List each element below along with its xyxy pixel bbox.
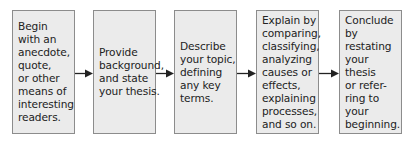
arrow-right-icon bbox=[156, 69, 174, 78]
step-label: Provide background, and state your thesi… bbox=[99, 46, 164, 98]
step-label: Begin with an anecdote, quote, or other … bbox=[18, 20, 74, 124]
step-box-2-background: Provide background, and state your thesi… bbox=[93, 10, 156, 134]
arrow-right-icon bbox=[319, 69, 339, 78]
step-box-3-describe: Describe your topic, defining any key te… bbox=[174, 10, 237, 134]
arrow-right-icon bbox=[75, 69, 93, 78]
step-label: Explain by comparing, classifying, analy… bbox=[262, 14, 321, 131]
step-box-4-explain: Explain by comparing, classifying, analy… bbox=[256, 10, 319, 134]
step-label: Describe your topic, defining any key te… bbox=[180, 40, 236, 105]
step-box-1-introduction: Begin with an anecdote, quote, or other … bbox=[12, 10, 75, 134]
arrow-right-icon bbox=[237, 69, 256, 78]
step-box-5-conclude: Conclude by restating your thesis or ref… bbox=[339, 10, 402, 134]
step-label: Conclude by restating your thesis or ref… bbox=[345, 14, 401, 131]
